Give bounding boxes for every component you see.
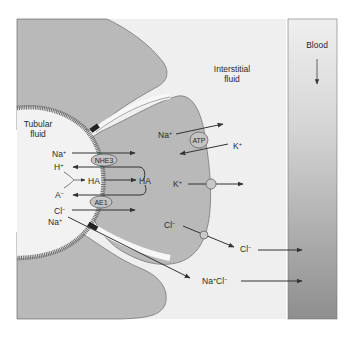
ae1-label: AE1 (94, 199, 107, 206)
blood-label: Blood (306, 40, 328, 50)
interstitial-fluid-label-2: fluid (224, 74, 240, 84)
nhe3-label: NHE3 (95, 157, 114, 164)
interstitial-fluid-label: Interstitial (214, 64, 250, 74)
ha-lumen-label: HA (88, 176, 100, 186)
renal-tubule-transport-diagram: Tubular fluid Interstitial fluid Blood N… (0, 0, 355, 352)
ha-cell-label: HA (139, 176, 151, 186)
cl-channel (200, 231, 208, 239)
k-channel (206, 179, 216, 189)
tubular-fluid-label: Tubular (24, 119, 53, 129)
blood-vessel (288, 19, 337, 319)
atp-label: ATP (192, 137, 205, 144)
tubular-fluid-label-2: fluid (30, 129, 46, 139)
